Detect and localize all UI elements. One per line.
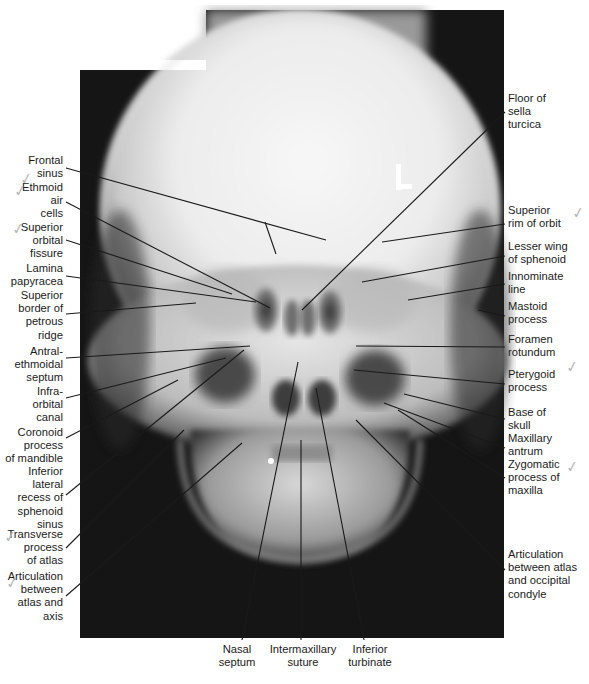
skull-radiograph [0, 0, 589, 684]
label-superior-border-petrous-ridge: Superior border of petrous ridge [8, 289, 63, 342]
label-superior-rim-orbit: Superior rim of orbit [508, 204, 561, 230]
label-base-of-skull: Base of skull [508, 406, 546, 432]
label-intermaxillary-suture: Intermaxillary suture [258, 643, 348, 669]
label-inferior-lateral-recess-sphenoid-sinus: Inferior lateral recess of sphenoid sinu… [8, 465, 63, 531]
label-lamina-papyracea: Lamina papyracea [8, 262, 63, 288]
label-pterygoid-process: Pterygoid process [508, 368, 555, 394]
label-inferior-turbinate: Inferior turbinate [340, 643, 400, 669]
label-infraorbital-canal: Infra- orbital canal [8, 385, 63, 425]
label-coronoid-process-mandible: Coronoid process of mandible [0, 426, 63, 466]
right-orbit [328, 268, 416, 332]
label-nasal-septum: Nasal septum [212, 643, 262, 669]
label-antral-ethmoidal-septum: Antral- ethmoidal septum [8, 345, 63, 385]
left-maxillary-antrum [195, 347, 255, 403]
label-lesser-wing-sphenoid: Lesser wing of sphenoid [508, 240, 568, 266]
label-innominate-line: Innominate line [508, 270, 563, 296]
label-articulation-atlas-occipital-condyle: Articulation between atlas and occipital… [508, 548, 577, 601]
right-maxillary-antrum [345, 350, 405, 406]
label-foramen-rotundum: Foramen rotundum [508, 333, 555, 359]
label-mastoid-process: Mastoid process [508, 300, 547, 326]
label-zygomatic-process-maxilla: Zygomatic process of maxilla [508, 458, 560, 498]
label-maxillary-antrum: Maxillary antrum [508, 432, 552, 458]
label-floor-sella-turcica: Floor of sella turcica [508, 92, 546, 132]
label-frontal-sinus: Frontal sinus [8, 154, 63, 180]
